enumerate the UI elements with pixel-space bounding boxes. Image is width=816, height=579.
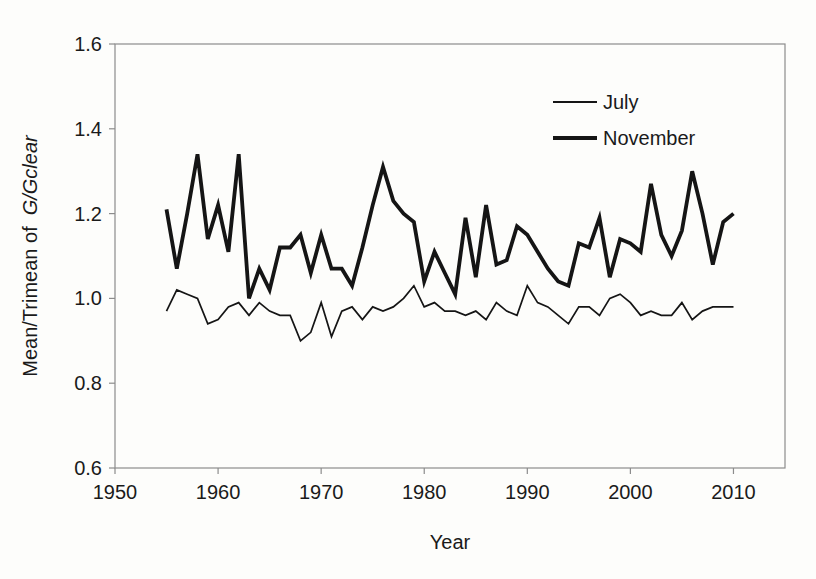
november-line-sample-icon [553,136,597,140]
y-tick-label: 1.2 [74,204,102,224]
y-tick-label: 0.6 [74,458,102,478]
x-tick-label: 1960 [196,482,241,502]
november-line-series [167,154,734,298]
x-tick-label: 2010 [711,482,756,502]
july-line-sample-icon [553,101,597,103]
x-axis-label: Year [430,531,470,554]
legend: July November [553,84,695,156]
x-tick-label: 1950 [93,482,138,502]
x-tick-label: 1970 [299,482,344,502]
y-axis-label: Mean/Trimean ofG/Gclear [19,135,42,376]
x-tick-label: 2000 [608,482,653,502]
y-tick-label: 1.4 [74,119,102,139]
legend-item-july: July [553,84,695,120]
legend-label-november: November [603,128,695,148]
legend-item-november: November [553,120,695,156]
y-tick-label: 1.6 [74,34,102,54]
y-axis-label-italic: G/Gclear [19,135,41,215]
figure-canvas: 19501960197019801990200020100.60.81.01.2… [0,0,816,579]
x-tick-label: 1990 [505,482,550,502]
legend-label-july: July [603,92,639,112]
y-axis-label-plain: Mean/Trimean of [19,226,41,376]
y-tick-label: 0.8 [74,373,102,393]
y-tick-label: 1.0 [74,288,102,308]
x-tick-label: 1980 [402,482,447,502]
